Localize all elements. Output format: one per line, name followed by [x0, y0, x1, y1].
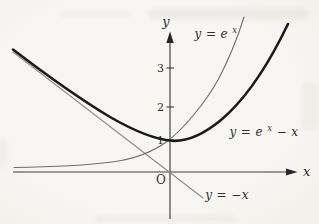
- exp-curve-label-base: y = e: [194, 27, 229, 41]
- x-axis-label: x: [303, 164, 311, 179]
- y-tick-label-3: 3: [157, 62, 164, 75]
- y-axis-arrow-icon: [166, 32, 173, 44]
- exp-curve-label-superscript: x: [232, 25, 237, 35]
- scanned-figure-page: x y O 1 2 3 y = e x y = e x: [0, 0, 319, 224]
- neg-x-line: [13, 52, 203, 198]
- function-plot: x y O 1 2 3 y = e x y = e x: [0, 0, 319, 224]
- exp-minus-x-curve: [13, 24, 288, 141]
- y-axis: y: [161, 14, 173, 219]
- exp-minus-x-label-base: y = e: [228, 125, 263, 139]
- y-axis-label: y: [161, 14, 170, 29]
- y-axis-ticks: 1 2 3: [157, 62, 174, 147]
- exp-minus-x-label-tail: − x: [277, 125, 299, 139]
- exp-minus-x-curve-label: y = e x − x: [228, 120, 298, 139]
- y-tick-label-2: 2: [157, 101, 164, 114]
- origin-label: O: [156, 173, 166, 187]
- exp-minus-x-label-superscript: x: [267, 123, 272, 133]
- exp-curve-label: y = e x: [194, 25, 238, 41]
- neg-x-line-label: y = −x: [204, 188, 249, 202]
- x-axis-arrow-icon: [286, 168, 298, 175]
